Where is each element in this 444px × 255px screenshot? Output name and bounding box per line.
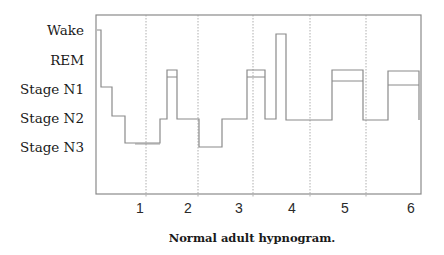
- hypnogram-plot: [0, 0, 444, 255]
- x-tick-1: 1: [136, 201, 144, 215]
- vertical-gridlines: [146, 15, 366, 198]
- x-tick-2: 2: [184, 201, 192, 215]
- plot-frame: [96, 15, 421, 194]
- x-tick-3: 3: [235, 201, 243, 215]
- rem-inner-lines: [167, 77, 419, 85]
- x-tick-6: 6: [407, 201, 415, 215]
- x-tick-4: 4: [288, 201, 296, 215]
- hypnogram-trace: [97, 30, 419, 147]
- figure-caption: Normal adult hypnogram.: [0, 231, 444, 245]
- x-tick-5: 5: [341, 201, 349, 215]
